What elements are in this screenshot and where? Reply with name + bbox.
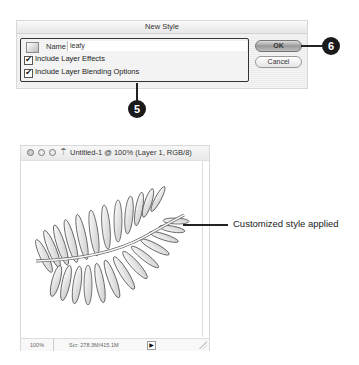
scratch-size-info: Scr: 278.3M/415.1M xyxy=(69,339,119,351)
leaf-frond-image xyxy=(24,161,202,337)
resize-grip-icon[interactable] xyxy=(199,341,207,349)
include-blending-options-row[interactable]: ✔Include Layer Blending Options xyxy=(24,67,139,78)
ok-button[interactable]: OK xyxy=(255,40,302,52)
callout-5-badge: 5 xyxy=(128,100,146,118)
include-layer-effects-row[interactable]: ✔Include Layer Effects xyxy=(24,54,105,65)
annotation-label: Customized style applied xyxy=(233,218,339,230)
dialog-title: New Style xyxy=(17,21,307,34)
status-menu-arrow-icon[interactable]: ▶ xyxy=(147,341,156,350)
include-blending-options-checkbox[interactable]: ✔ xyxy=(24,69,33,78)
close-window-icon[interactable] xyxy=(27,149,34,156)
cancel-button[interactable]: Cancel xyxy=(255,56,302,68)
include-blending-options-label: Include Layer Blending Options xyxy=(35,67,139,76)
document-title: Untitled-1 @ 100% (Layer 1, RGB/8) xyxy=(70,148,192,158)
include-layer-effects-checkbox[interactable]: ✔ xyxy=(24,56,33,65)
minimize-window-icon[interactable] xyxy=(38,149,45,156)
document-canvas[interactable] xyxy=(24,161,203,337)
include-layer-effects-label: Include Layer Effects xyxy=(35,54,105,63)
style-options-group: Name leafy ✔Include Layer Effects ✔Inclu… xyxy=(20,38,249,82)
annotation-leader-line xyxy=(183,224,228,226)
document-proxy-icon: ⍑ xyxy=(61,148,66,158)
name-input[interactable]: leafy xyxy=(67,41,247,51)
style-swatch-icon xyxy=(26,42,39,53)
document-window: ⍑ Untitled-1 @ 100% (Layer 1, RGB/8) xyxy=(20,145,210,351)
document-titlebar[interactable]: ⍑ Untitled-1 @ 100% (Layer 1, RGB/8) xyxy=(21,146,209,161)
callout-6-leader-line xyxy=(301,45,323,47)
callout-6-badge: 6 xyxy=(322,37,340,55)
zoom-window-icon[interactable] xyxy=(49,149,56,156)
name-label: Name xyxy=(46,42,66,52)
status-bar: 100% Scr: 278.3M/415.1M ▶ xyxy=(21,338,209,351)
zoom-level-field[interactable]: 100% xyxy=(21,339,54,351)
